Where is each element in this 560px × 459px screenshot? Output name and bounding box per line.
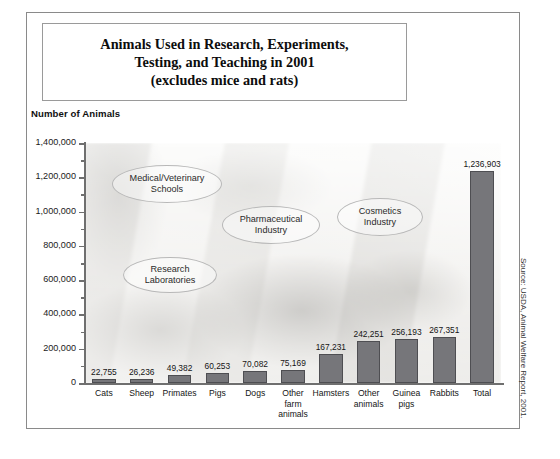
y-tick-mark bbox=[79, 212, 84, 214]
title-line-1: Animals Used in Research, Experiments, bbox=[100, 35, 348, 53]
bar-hamsters[interactable] bbox=[319, 354, 342, 383]
y-tick-label: 1,000,000 bbox=[10, 206, 76, 216]
bar-column: 167,231 bbox=[319, 143, 342, 383]
bar-value-label: 26,236 bbox=[129, 367, 155, 377]
y-minor-tick-mark bbox=[81, 229, 84, 231]
y-minor-tick-mark bbox=[81, 263, 84, 265]
bar-value-label: 1,236,903 bbox=[463, 159, 500, 169]
x-tick-label-line: animals bbox=[350, 399, 388, 410]
title-line-2: Testing, and Teaching in 2001 bbox=[134, 53, 314, 71]
x-tick-label-line: Guinea bbox=[388, 388, 426, 399]
y-tick-label: 1,200,000 bbox=[10, 171, 76, 181]
bar-other-farm-animals[interactable] bbox=[281, 370, 304, 383]
callout-line-2: Industry bbox=[359, 217, 401, 228]
x-tick-label-line: Hamsters bbox=[312, 388, 350, 399]
x-tick-label-line: Other bbox=[350, 388, 388, 399]
callout-line-2: Laboratories bbox=[145, 275, 196, 286]
y-minor-tick-mark bbox=[81, 332, 84, 334]
x-tick-label-line: animals bbox=[274, 409, 312, 420]
x-tick-label: Pigs bbox=[198, 388, 236, 399]
callout-cosmetics: CosmeticsIndustry bbox=[337, 198, 423, 236]
bar-total[interactable] bbox=[470, 171, 493, 383]
bar-column: 242,251 bbox=[357, 143, 380, 383]
y-tick-mark bbox=[79, 246, 84, 248]
bar-value-label: 49,382 bbox=[167, 363, 193, 373]
x-tick-label: Total bbox=[463, 388, 501, 399]
x-axis-line bbox=[84, 383, 504, 385]
callout-research: ResearchLaboratories bbox=[123, 257, 217, 293]
y-tick-mark bbox=[79, 314, 84, 316]
x-tick-label: Sheep bbox=[123, 388, 161, 399]
title-line-3: (excludes mice and rats) bbox=[151, 71, 298, 89]
y-tick-label: 600,000 bbox=[10, 274, 76, 284]
y-tick-mark bbox=[79, 177, 84, 179]
bar-value-label: 75,169 bbox=[280, 358, 306, 368]
y-tick-label: 200,000 bbox=[10, 343, 76, 353]
chart-title-box: Animals Used in Research, Experiments, T… bbox=[42, 23, 407, 101]
bar-other-animals[interactable] bbox=[357, 341, 380, 383]
y-minor-tick-mark bbox=[81, 297, 84, 299]
x-tick-label-line: farm bbox=[274, 399, 312, 410]
bar-value-label: 242,251 bbox=[353, 329, 383, 339]
callout-line-2: Industry bbox=[240, 225, 303, 236]
bar-column: 75,169 bbox=[281, 143, 304, 383]
y-tick-mark bbox=[79, 383, 84, 385]
x-tick-label-line: Dogs bbox=[236, 388, 274, 399]
x-tick-label: Cats bbox=[85, 388, 123, 399]
callout-line-1: Cosmetics bbox=[359, 206, 401, 217]
x-tick-label: Otheranimals bbox=[350, 388, 388, 409]
bar-column: 70,082 bbox=[243, 143, 266, 383]
y-axis-line bbox=[84, 142, 86, 384]
bar-primates[interactable] bbox=[168, 375, 191, 383]
callout-line-1: Pharmaceutical bbox=[240, 214, 303, 225]
y-tick-label: 400,000 bbox=[10, 308, 76, 318]
x-tick-label: Dogs bbox=[236, 388, 274, 399]
x-tick-label: Hamsters bbox=[312, 388, 350, 399]
x-tick-label-line: pigs bbox=[388, 399, 426, 410]
y-tick-mark bbox=[79, 143, 84, 145]
bar-guinea-pigs[interactable] bbox=[395, 339, 418, 383]
x-tick-label: Primates bbox=[161, 388, 199, 399]
bar-column: 256,193 bbox=[395, 143, 418, 383]
bar-column: 22,755 bbox=[92, 143, 115, 383]
x-tick-label: Otherfarmanimals bbox=[274, 388, 312, 420]
bar-value-label: 60,253 bbox=[205, 361, 231, 371]
bar-rabbits[interactable] bbox=[433, 337, 456, 383]
y-axis-tick-labels: 1,400,0001,200,0001,000,000800,000600,00… bbox=[8, 0, 76, 459]
x-tick-label-line: Sheep bbox=[123, 388, 161, 399]
y-tick-mark bbox=[79, 349, 84, 351]
bar-column: 1,236,903 bbox=[470, 143, 493, 383]
callout-line-1: Medical/Veterinary bbox=[130, 173, 205, 184]
x-tick-label-line: Cats bbox=[85, 388, 123, 399]
x-tick-label-line: Rabbits bbox=[425, 388, 463, 399]
bar-value-label: 22,755 bbox=[91, 367, 117, 377]
y-tick-label: 0 bbox=[10, 377, 76, 387]
bar-pigs[interactable] bbox=[206, 373, 229, 383]
source-note: Source: USDA, Animal Welfare Report, 200… bbox=[519, 258, 528, 419]
x-axis-tick-labels: CatsSheepPrimatesPigsDogsOtherfarmanimal… bbox=[85, 388, 501, 448]
bar-dogs[interactable] bbox=[243, 371, 266, 383]
x-tick-label-line: Pigs bbox=[198, 388, 236, 399]
callout-pharmaceutical: PharmaceuticalIndustry bbox=[222, 206, 320, 244]
x-tick-label: Guineapigs bbox=[388, 388, 426, 409]
x-tick-label: Rabbits bbox=[425, 388, 463, 399]
y-minor-tick-mark bbox=[81, 366, 84, 368]
y-minor-tick-mark bbox=[81, 194, 84, 196]
y-tick-label: 800,000 bbox=[10, 240, 76, 250]
x-tick-label-line: Total bbox=[463, 388, 501, 399]
y-tick-mark bbox=[79, 280, 84, 282]
bar-column: 267,351 bbox=[433, 143, 456, 383]
callout-medical-veterinary: Medical/VeterinarySchools bbox=[112, 165, 222, 203]
bar-value-label: 256,193 bbox=[391, 327, 421, 337]
x-tick-label-line: Other bbox=[274, 388, 312, 399]
bar-value-label: 70,082 bbox=[242, 359, 268, 369]
callout-line-2: Schools bbox=[130, 184, 205, 195]
x-tick-label-line: Primates bbox=[161, 388, 199, 399]
bar-value-label: 167,231 bbox=[316, 342, 346, 352]
plot-area: 22,75526,23649,38260,25370,08275,169167,… bbox=[85, 143, 501, 383]
callout-line-1: Research bbox=[145, 264, 196, 275]
bar-value-label: 267,351 bbox=[429, 325, 459, 335]
y-minor-tick-mark bbox=[81, 160, 84, 162]
y-tick-label: 1,400,000 bbox=[10, 137, 76, 147]
